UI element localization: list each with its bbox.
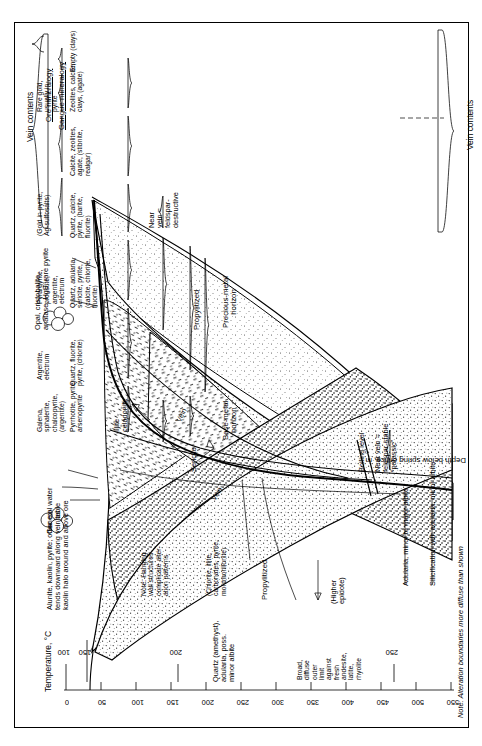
ore-item-4: Galena, sphalerite, chalcopyrite, (argen… xyxy=(36,394,65,432)
label-opal-cristobalite: Opal, cristobalite, anatase, HgS, rare p… xyxy=(34,248,50,330)
depth-axis-title: Depth below spring orifice, m xyxy=(365,456,466,464)
label-quartz-amethyst: Quartz (amethyst), adularia, poss. minor… xyxy=(212,621,236,682)
gangue-item-6: Pyrrhotite, pyrite, arsenopyrite xyxy=(69,381,84,432)
depth-tick-100: 100 xyxy=(132,698,144,706)
gangue-item-3: Quartz, calcite, pyrite, (barite, fluori… xyxy=(69,193,91,238)
depth-tick-400: 400 xyxy=(342,698,354,706)
label-near-vein-upper: Near vein = feldspar- destructive xyxy=(148,192,180,228)
label-general-water-table: General water table xyxy=(46,488,62,534)
figure-root: Vein contents Vein contents Gangue miner… xyxy=(0,0,482,746)
horizon-precious-metal: Precious-metal horizon xyxy=(222,276,239,328)
gangue-item-2: Calcite, zeolites, agate, (stibnite, rea… xyxy=(69,127,91,177)
ore-item-0: Rare gold, usually in pyrite xyxy=(36,81,58,112)
depth-tick-200: 200 xyxy=(202,698,214,706)
temp-tick-100: 100 xyxy=(58,648,70,656)
depth-tick-150: 150 xyxy=(167,698,179,706)
gangue-item-1: Zeolites, calcite, clays, (agate) xyxy=(69,63,84,112)
label-illite-celadonite: Illite celadonite xyxy=(113,398,129,432)
temp-tick-250: 250 xyxy=(386,648,398,656)
figure-footnote: Note: Alteration boundaries more diffuse… xyxy=(457,546,465,718)
label-broad-diffuse: Broad, diffuse outer limit against fresh… xyxy=(296,652,362,680)
label-hanging-wall-note: Note: Hanging wall structures complicate… xyxy=(140,546,169,596)
label-boiling-level: Boiling level xyxy=(358,433,366,472)
depth-tick-300: 300 xyxy=(272,698,284,706)
depth-axis-ticks xyxy=(66,682,451,690)
label-higher-epidote: (Higher epidote) xyxy=(330,577,346,604)
depth-tick-250: 250 xyxy=(237,698,249,706)
depth-tick-350: 350 xyxy=(307,698,319,706)
temp-tick-200: 200 xyxy=(170,648,182,656)
vein-contents-right-label: Vein contents xyxy=(466,100,475,150)
label-silicification: Silicification with adularia, minor albi… xyxy=(429,462,437,586)
label-propylitized-lower: Propylitized xyxy=(261,560,269,600)
vein-contents-left-label: Vein contents xyxy=(26,92,35,142)
depth-tick-0: 0 xyxy=(65,698,69,706)
leader-alunite xyxy=(68,470,98,478)
temperature-axis-title: Temperature, °C xyxy=(44,631,53,692)
label-sericite: Sericite xyxy=(190,447,198,472)
bracket-vein-contents-right xyxy=(438,30,454,232)
ore-item-3: Argentite, electrum xyxy=(36,351,51,380)
horizon-base-metal: Base-metal horizon xyxy=(222,401,239,440)
label-adularia: Adularia, minor to major albite xyxy=(402,488,410,586)
depth-tick-450: 450 xyxy=(377,698,389,706)
temp-tick-150: 150 xyxy=(79,648,91,656)
depth-tick-500: 500 xyxy=(412,698,424,706)
boiling-curve-foot xyxy=(90,652,93,690)
gangue-mineralogy-header: Gangue mineralogy xyxy=(58,62,66,130)
gangue-item-5: Quartz, fluorite, pyrite, (chlorite) xyxy=(69,339,84,386)
water-table-line xyxy=(62,487,98,489)
depth-tick-50: 50 xyxy=(98,698,106,706)
label-chlorite-assemblage: (Chlorite, illite, carbonates, pyrite, m… xyxy=(205,540,227,596)
label-propylitized-upper: Propylitized xyxy=(193,290,201,330)
gangue-item-4: Quartz, adularia, sericite, pyrite, (cal… xyxy=(69,258,98,308)
ore-item-1: (Gold in pyrite, Ag-sulfosalts) xyxy=(36,192,51,236)
